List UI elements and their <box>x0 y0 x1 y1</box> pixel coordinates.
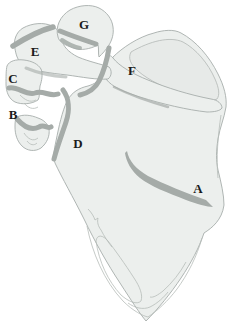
label-d: D <box>73 136 82 151</box>
label-e: E <box>31 44 40 59</box>
scapula-diagram: A B C D E F G <box>0 0 238 336</box>
label-b: B <box>9 107 18 122</box>
scapula-figure: A B C D E F G <box>0 0 238 336</box>
label-a: A <box>193 181 203 196</box>
label-f: F <box>128 63 136 78</box>
label-c: C <box>8 71 17 86</box>
label-g: G <box>79 17 89 32</box>
